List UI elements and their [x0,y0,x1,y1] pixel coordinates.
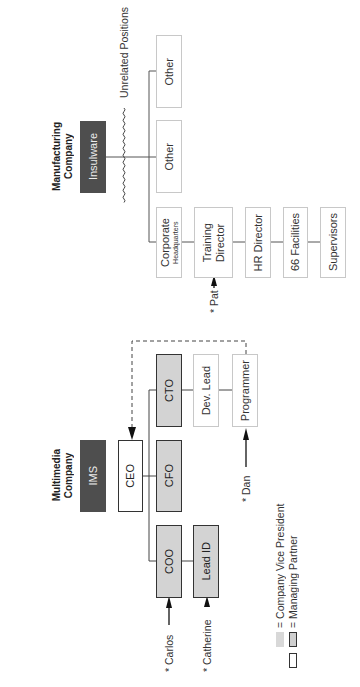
catherine-label: * Catherine [200,608,214,672]
director-label: Director [214,223,227,262]
other-box-2: Other [156,120,182,193]
programmer-box: Programmer [232,354,258,427]
unrelated-positions-label: Unrelated Positions [117,3,131,101]
dan-label: * Dan [239,468,253,502]
dev-lead-label: Dev. Lead [200,366,213,415]
manufacturing-company-title: Manufacturing Company [49,116,75,196]
headquarters-label: Headquarters [171,218,179,267]
cfo-label: CFO [163,464,176,487]
corporate-label: Corporate [159,218,172,267]
pat-label: * Pat [207,287,221,313]
dan-arrow [243,428,249,467]
lead-id-label: Lead ID [200,542,213,581]
ims-label: IMS [87,466,100,486]
ceo-box: CEO [118,440,143,512]
supervisors-label: Supervisors [327,213,340,271]
title-line-2: Company [62,122,74,191]
insulware-box: Insulware [80,121,106,193]
other-label: Other [163,58,176,86]
other-box-1: Other [156,35,182,108]
supervisors-box: Supervisors [320,207,346,278]
coo-label: COO [163,549,176,574]
multimedia-company-title: Multimedia Company [49,443,75,507]
legend-vp-swatch [276,632,284,647]
cfo-box: CFO [156,440,182,512]
title-line-2: Company [62,449,74,501]
title-line-1: Manufacturing [51,122,63,191]
legend-partner-white-swatch [289,653,297,668]
training-label: Training [201,223,214,262]
corporate-headquarters-box: Corporate Headquarters [156,207,182,278]
dev-lead-box: Dev. Lead [193,354,219,427]
facilities-box: 66 Facilities [283,207,308,278]
carlos-arrow [166,596,172,625]
legend-partner-label: = Managing Partner [286,500,300,628]
hr-director-box: HR Director [245,207,271,278]
other-label: Other [163,143,176,171]
title-line-1: Multimedia [51,449,63,501]
legend-vp-label: = Company Vice President [273,490,287,628]
programmer-label: Programmer [239,360,252,421]
org-chart-diagram: Manufacturing Company Insulware Unrelate… [0,0,360,687]
carlos-label: * Carlos [162,626,176,672]
ceo-label: CEO [124,464,137,488]
legend-partner-gray-swatch [289,632,297,647]
insulware-label: Insulware [87,133,100,180]
facilities-label: 66 Facilities [289,213,302,271]
wavy-separator-line [123,108,125,203]
coo-box: COO [156,525,182,598]
cto-label: CTO [163,379,176,402]
hr-director-label: HR Director [252,214,265,271]
training-director-box: Training Director [194,207,233,278]
lead-id-box: Lead ID [193,525,219,598]
cto-box: CTO [156,354,182,427]
ims-box: IMS [80,440,106,512]
